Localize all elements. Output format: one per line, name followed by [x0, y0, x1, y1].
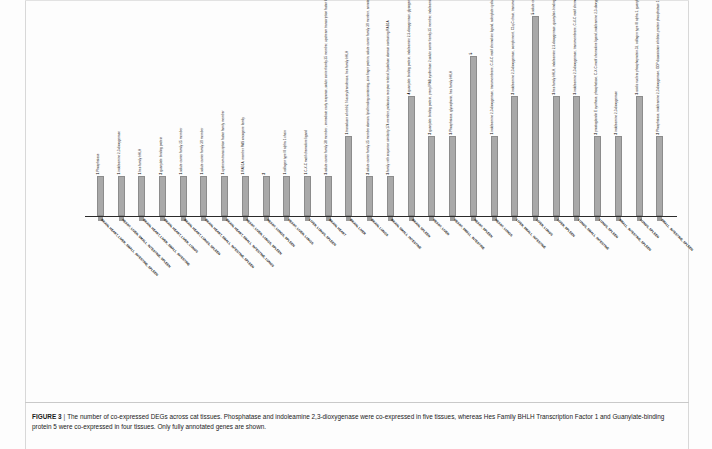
gene-annotation-label: 1 Phosphatase: [97, 24, 100, 174]
bar-slot: 2 guanylate binding protein, prenyl RAB …: [422, 16, 443, 216]
bar-slot: 3 indoleamine 2,3-dioxygenase, transmemb…: [567, 16, 588, 216]
gene-annotation-label: 1 transducer of erbb2, N-acetyltransfera…: [346, 0, 349, 134]
bar-slot: 5: [463, 16, 484, 216]
gene-annotation-label: 3 acidic nuclear phosphoprotein 32, coll…: [636, 0, 639, 94]
gene-name-text: solute carrier family 25 member domain, …: [365, 0, 369, 172]
gene-name-text: guanylate binding protein, indoleamine 2…: [407, 0, 411, 92]
gene-annotation-label: 2 solute carrier family 25 member domain…: [366, 24, 369, 174]
gene-name-text: indoleamine 2,3-dioxygenase, transmembra…: [572, 0, 576, 92]
x-tick-label: HEART, LUNGS: [494, 219, 513, 238]
x-tick-label: LUNGS, SPLEEN: [597, 219, 618, 240]
gene-annotation-label: 2 prostaglandin E synthase, phosphatase,…: [594, 0, 597, 134]
bar: [573, 96, 580, 216]
x-tick-label: LIVER, SPLEEN: [556, 219, 575, 238]
gene-name-text: Phosphatase, indoleamine 2,3-dioxygenase…: [655, 0, 659, 132]
x-tick-label: LUNGS, SPLEEN: [639, 219, 660, 240]
gene-name-text: RAB1A, member RAS oncogene family: [241, 117, 245, 173]
bar: [532, 16, 539, 216]
gene-name-text: indoleamine 2,3-dioxygenase: [117, 131, 121, 173]
bar-slot: 2 Phosphatase, indoleamine 2,3-dioxygena…: [649, 16, 670, 216]
gene-name-text: transducer of erbb2, N-acetyltransferase…: [345, 50, 349, 132]
bar: [221, 176, 228, 216]
bar: [366, 176, 373, 216]
gene-name-text: solute carrier family 38 member , immedi…: [324, 0, 328, 172]
bar-slot: 1 C-X-C motif chemokine ligand: [297, 16, 318, 216]
bar: [387, 176, 394, 216]
gene-annotation-label: 1 hes family bHLH: [138, 24, 141, 174]
bar: [283, 176, 290, 216]
x-tick-label: BRAIN, LIVER: [349, 219, 366, 236]
x-tick-label: BRAIN, SPLEEN: [411, 219, 431, 239]
gene-name-text: hes family bHLH: [137, 148, 141, 172]
figure-page: 1 Phosphatase1 indoleamine 2,3-dioxygena…: [0, 0, 712, 449]
bar-slot: 3 acidic nuclear phosphoprotein 32, coll…: [629, 16, 650, 216]
bar-value-label: 2: [262, 172, 266, 174]
gene-annotation-label: 1 indoleamine 2,3-dioxygenase, transmemb…: [491, 0, 494, 134]
gene-annotation-label: 5 solute carrier family 39 member, guany…: [532, 0, 535, 14]
bar-chart: 1 Phosphatase1 indoleamine 2,3-dioxygena…: [30, 6, 682, 306]
plot-region: 1 Phosphatase1 indoleamine 2,3-dioxygena…: [90, 16, 670, 216]
gene-annotation-label: 2 indoleamine 2,3-dioxygenase: [615, 0, 618, 134]
gene-annotation-label: 4 guanylate binding protein, indoleamine…: [408, 0, 411, 94]
gene-annotation-label: 1 C-X-C motif chemokine ligand: [304, 24, 307, 174]
bar: [511, 96, 518, 216]
gene-name-text: solute carrier family 39 member, guanyla…: [531, 0, 535, 12]
gene-annotation-label: 1 upstream transcription factor family m…: [221, 24, 224, 174]
bar: [159, 176, 166, 216]
bar-slot: 1 RAB1A, member RAS oncogene family: [235, 16, 256, 216]
bar: [636, 96, 643, 216]
x-axis-line: [85, 216, 677, 217]
page-border-top: [25, 0, 689, 1]
bar: [180, 176, 187, 216]
gene-annotation-label: 5: [470, 0, 473, 54]
gene-name-text: family with sequence similarity 174 memb…: [386, 20, 390, 172]
gene-name-text: Phosphatase: [96, 153, 100, 172]
bar: [470, 56, 477, 216]
gene-name-text: Phosphatase, glycophorin, hes family bHL…: [448, 70, 452, 132]
gene-annotation-label: 1 collagen type III alpha 1 chain: [283, 24, 286, 174]
bar-slot: 1 transducer of erbb2, N-acetyltransfera…: [339, 16, 360, 216]
bar-slot: 1 solute carrier family 39 member: [194, 16, 215, 216]
gene-name-text: guanylate binding protein, prenyl RAB sy…: [427, 0, 431, 132]
bar-value-label: 5: [469, 52, 473, 54]
bar: [408, 96, 415, 216]
gene-name-text: solute carrier family 39 member: [200, 127, 204, 172]
x-tick-label: BRAIN, HEART: [328, 219, 347, 238]
bar-slot: 5 solute carrier family 39 member, guany…: [525, 16, 546, 216]
gene-annotation-label: 2 guanylate binding protein, prenyl RAB …: [428, 0, 431, 134]
gene-name-text: guanylate binding protein: [158, 136, 162, 172]
bar: [304, 176, 311, 216]
gene-name-text: indoleamine 2,3-dioxygenase: [614, 91, 618, 133]
page-border-right: [688, 0, 689, 449]
bar-slot: 1 upstream transcription factor family m…: [214, 16, 235, 216]
gene-name-text: upstream transcription factor family mem…: [220, 110, 224, 172]
gene-name-text: C-X-C motif chemokine ligand: [303, 130, 307, 173]
gene-annotation-label: 1 solute carrier family 39 member: [201, 24, 204, 174]
gene-annotation-label: 3 solute carrier family 38 member , imme…: [325, 24, 328, 174]
bar: [656, 136, 663, 216]
caption-divider: [25, 402, 689, 403]
bar: [263, 176, 270, 216]
gene-annotation-label: 2 Phosphatase, indoleamine 2,3-dioxygena…: [656, 0, 659, 134]
bar-slot: 2 prostaglandin E synthase, phosphatase,…: [587, 16, 608, 216]
gene-annotation-label: 3 family with sequence similarity 174 me…: [387, 24, 390, 174]
gene-name-text: indoleamine 2,3-dioxygenase, complement,…: [510, 0, 514, 92]
bar: [97, 176, 104, 216]
bar-slot: 2 solute carrier family 25 member domain…: [359, 16, 380, 216]
x-tick-label: BRAIN, LUNGS: [369, 219, 388, 238]
x-axis-tick-labels: BRAIN, HEART, LIVER, SMALL_INTESTINE, SP…: [90, 218, 670, 306]
gene-annotation-label: 1 RAB1A, member RAS oncogene family: [242, 24, 245, 174]
figure-caption: FIGURE 3|The number of co-expressed DEGs…: [32, 412, 682, 431]
gene-name-text: collagen type III alpha 1 chain: [282, 130, 286, 172]
gene-annotation-label: 2: [263, 24, 266, 174]
gene-annotation-label: 2 guanylate binding protein: [159, 24, 162, 174]
bar: [242, 176, 249, 216]
gene-name-text: prostaglandin E synthase, phosphatase, C…: [593, 0, 597, 132]
bar-slot: 2 guanylate binding protein: [152, 16, 173, 216]
x-tick-label: LIVER, LUNGS: [535, 219, 553, 237]
bar: [553, 96, 560, 216]
gene-name-text: solute carrier family 25 member: [179, 127, 183, 172]
bar: [200, 176, 207, 216]
bar-slot: 3 solute carrier family 38 member , imme…: [318, 16, 339, 216]
bar: [345, 136, 352, 216]
